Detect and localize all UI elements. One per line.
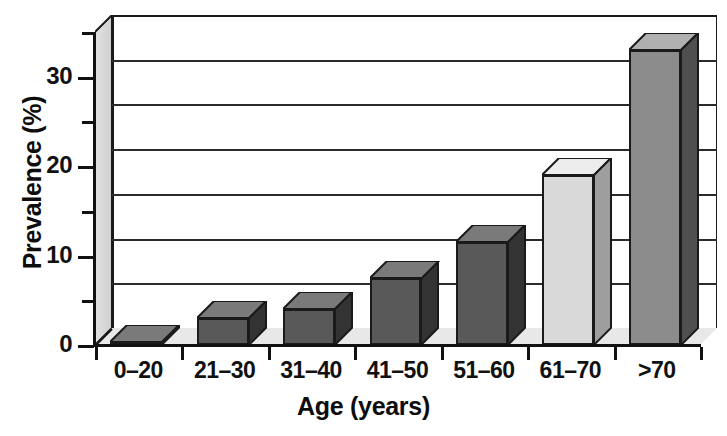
bar->70 bbox=[629, 33, 698, 345]
bar-front-face bbox=[456, 242, 508, 345]
bar-side-outline bbox=[594, 158, 613, 347]
y-tick-major bbox=[78, 256, 94, 259]
bar-front-face bbox=[542, 175, 594, 345]
plot-area: 0102030 0–2021–3031–4041–5051–6061–70>70 bbox=[0, 0, 727, 436]
bar-51–60 bbox=[456, 225, 525, 345]
x-tick bbox=[95, 347, 98, 360]
gridline bbox=[112, 60, 717, 62]
bar-61–70 bbox=[542, 158, 611, 345]
x-category-label: 31–40 bbox=[268, 357, 354, 384]
gridline bbox=[112, 194, 717, 196]
x-category-label: 61–70 bbox=[527, 357, 613, 384]
x-category-label: 41–50 bbox=[354, 357, 440, 384]
bar-front-face bbox=[629, 50, 681, 345]
x-category-label: 21–30 bbox=[181, 357, 267, 384]
x-axis-title: Age (years) bbox=[0, 392, 727, 421]
x-category-label: 51–60 bbox=[441, 357, 527, 384]
x-tick bbox=[700, 347, 703, 360]
y-axis-title: Prevalence (%) bbox=[18, 73, 47, 293]
bar-0–20 bbox=[110, 325, 179, 345]
bar-chart-figure: 0102030 0–2021–3031–4041–5051–6061–70>70… bbox=[0, 0, 727, 436]
x-category-label: >70 bbox=[614, 357, 700, 384]
y-tick-minor bbox=[82, 211, 94, 214]
bar-front-face bbox=[283, 309, 335, 345]
y-tick-major bbox=[78, 345, 94, 348]
y-tick-major bbox=[78, 77, 94, 80]
y-tick-minor bbox=[82, 121, 94, 124]
y-tick-major bbox=[78, 166, 94, 169]
gridline bbox=[112, 149, 717, 151]
bar-side-outline bbox=[681, 33, 700, 347]
gridline bbox=[112, 104, 717, 106]
x-category-label: 0–20 bbox=[95, 357, 181, 384]
bar-41–50 bbox=[370, 261, 439, 345]
bar-front-face bbox=[370, 278, 422, 345]
gridline bbox=[112, 239, 717, 241]
y-tick-minor bbox=[82, 32, 94, 35]
y-tick-minor bbox=[82, 300, 94, 303]
chart-left-wall-outline bbox=[95, 15, 113, 346]
bar-21–30 bbox=[197, 301, 266, 345]
bar-front-face bbox=[197, 318, 249, 345]
y-tick-label: 0 bbox=[4, 330, 72, 358]
bar-31–40 bbox=[283, 292, 352, 345]
